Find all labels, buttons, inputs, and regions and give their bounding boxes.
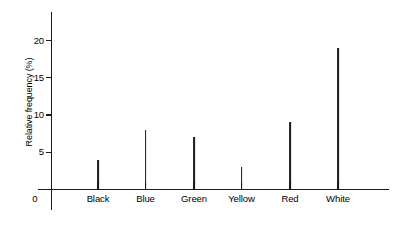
spike-yellow [241, 167, 243, 189]
y-tick-label: 15 [22, 73, 44, 83]
x-tick-label-white: White [326, 193, 350, 204]
y-tick-label-wrap: 20 [0, 36, 44, 46]
x-tick-label-green: Green [181, 193, 207, 204]
x-tick-label-yellow: Yellow [228, 193, 255, 204]
y-tick-mark [46, 114, 52, 115]
y-tick-label: 5 [22, 147, 44, 157]
y-tick-label: 20 [22, 36, 44, 46]
y-axis-line [51, 12, 52, 210]
spike-green [193, 137, 195, 189]
y-tick-label-wrap: 5 [0, 147, 44, 157]
y-tick-mark [46, 40, 52, 41]
y-tick-mark [46, 77, 52, 78]
spike-white [337, 48, 339, 190]
origin-label: 0 [32, 193, 37, 204]
spike-red [289, 122, 291, 189]
y-tick-label: 10 [22, 110, 44, 120]
spike-blue [145, 130, 147, 190]
y-tick-label-wrap: 10 [0, 110, 44, 120]
x-tick-label-black: Black [87, 193, 110, 204]
relative-frequency-chart: Relative frequency (%) 2015105 BlackBlue… [0, 0, 405, 226]
y-tick-label-wrap: 15 [0, 73, 44, 83]
y-tick-mark [46, 152, 52, 153]
spike-black [97, 160, 99, 190]
x-tick-label-blue: Blue [136, 193, 155, 204]
x-tick-label-red: Red [281, 193, 298, 204]
